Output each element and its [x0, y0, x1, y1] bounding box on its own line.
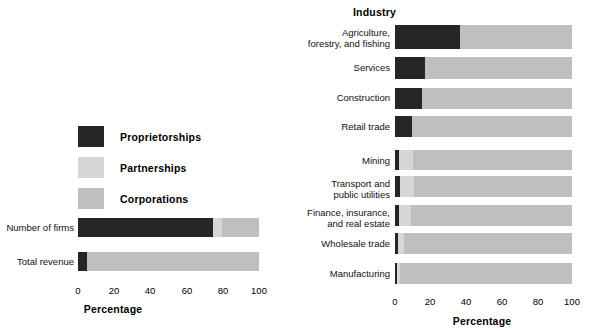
left-row-label-number-of-firms: Number of firms: [0, 222, 74, 233]
right-x-tick-label: 20: [425, 296, 436, 307]
legend-label-corporations: Corporations: [120, 193, 188, 205]
legend-swatch-partnerships: [78, 157, 104, 178]
right-x-tick-80: 80: [533, 291, 544, 309]
right-x-tick-40: 40: [461, 291, 472, 309]
seg-corporations: [422, 88, 572, 109]
right-x-tick-60: 60: [497, 291, 508, 309]
left-bar-seg-proprietorships: [78, 252, 87, 271]
right-row-label-construction: Construction: [292, 92, 390, 103]
left-x-tick-label: 0: [75, 285, 80, 296]
left-x-axis-title: Percentage: [84, 303, 143, 315]
right-bar-services: [395, 57, 572, 79]
right-x-tick-0: 0: [392, 291, 397, 309]
right-x-tick-label: 40: [461, 296, 472, 307]
left-bar-seg-corporations: [87, 252, 259, 271]
left-chart-panel: Proprietorships Partnerships Corporation…: [0, 0, 292, 331]
right-row-label-agriculture: Agriculture, forestry, and fishing: [292, 27, 390, 49]
left-x-tick-label: 100: [251, 285, 267, 296]
left-bar-seg-partnerships: [213, 218, 222, 237]
right-chart-title: Industry: [353, 6, 396, 18]
seg-proprietorships: [395, 25, 460, 49]
seg-corporations: [412, 116, 572, 137]
seg-partnerships: [399, 150, 413, 170]
seg-corporations: [404, 233, 572, 254]
legend-swatch-proprietorships: [78, 126, 104, 147]
seg-proprietorships: [395, 116, 412, 137]
left-bar-seg-proprietorships: [78, 218, 213, 237]
legend-item-proprietorships: Proprietorships: [78, 126, 201, 147]
right-x-tick-label: 80: [533, 296, 544, 307]
left-x-tick-40: 40: [145, 280, 156, 298]
left-x-tick-label: 80: [218, 285, 229, 296]
left-x-tick-label: 20: [109, 285, 120, 296]
left-x-tick-20: 20: [109, 280, 120, 298]
seg-corporations: [414, 176, 572, 197]
right-x-tick-label: 60: [497, 296, 508, 307]
seg-corporations: [400, 263, 572, 284]
right-x-tick-20: 20: [425, 291, 436, 309]
left-bar-number-of-firms: [78, 218, 259, 237]
right-row-label-services: Services: [292, 62, 390, 73]
left-row-label-total-revenue: Total revenue: [0, 256, 74, 267]
legend-item-corporations: Corporations: [78, 188, 201, 209]
seg-proprietorships: [395, 88, 422, 109]
right-row-label-wholesale-trade: Wholesale trade: [292, 238, 390, 249]
seg-proprietorships: [395, 57, 425, 79]
right-bar-mining: [395, 150, 572, 170]
right-row-label-manufacturing: Manufacturing: [292, 268, 390, 279]
right-bar-agriculture: [395, 25, 572, 49]
left-x-tick-80: 80: [218, 280, 229, 298]
seg-corporations: [425, 57, 572, 79]
right-x-tick-label: 100: [564, 296, 580, 307]
left-x-tick-label: 40: [145, 285, 156, 296]
right-row-label-transport: Transport and public utilities: [292, 178, 390, 200]
right-x-tick-100: 100: [564, 291, 580, 309]
right-row-label-finance: Finance, insurance, and real estate: [292, 207, 390, 229]
left-bar-seg-corporations: [222, 218, 259, 237]
seg-corporations: [460, 25, 572, 49]
seg-partnerships: [399, 205, 411, 226]
right-bar-finance: [395, 205, 572, 226]
right-x-axis-title: Percentage: [453, 315, 512, 327]
right-row-label-retail-trade: Retail trade: [292, 121, 390, 132]
right-bar-transport: [395, 176, 572, 197]
right-x-axis: 0 20 40 60 80 100: [292, 291, 592, 321]
right-bar-manufacturing: [395, 263, 572, 284]
legend-swatch-corporations: [78, 188, 104, 209]
left-x-tick-60: 60: [182, 280, 193, 298]
left-x-axis: 0 20 40 60 80 100: [0, 280, 292, 310]
seg-partnerships: [400, 176, 414, 197]
right-bar-retail-trade: [395, 116, 572, 137]
legend-label-proprietorships: Proprietorships: [120, 131, 201, 143]
right-chart-panel: Industry Agriculture, forestry, and fish…: [292, 0, 592, 331]
right-row-label-mining: Mining: [292, 155, 390, 166]
left-x-tick-label: 60: [182, 285, 193, 296]
left-bar-total-revenue: [78, 252, 259, 271]
legend-label-partnerships: Partnerships: [120, 162, 187, 174]
right-x-tick-label: 0: [392, 296, 397, 307]
legend-item-partnerships: Partnerships: [78, 157, 201, 178]
legend: Proprietorships Partnerships Corporation…: [78, 126, 201, 219]
left-x-tick-100: 100: [251, 280, 267, 298]
right-bar-wholesale-trade: [395, 233, 572, 254]
left-x-tick-0: 0: [75, 280, 80, 298]
seg-corporations: [413, 150, 572, 170]
right-bar-construction: [395, 88, 572, 109]
seg-corporations: [411, 205, 572, 226]
